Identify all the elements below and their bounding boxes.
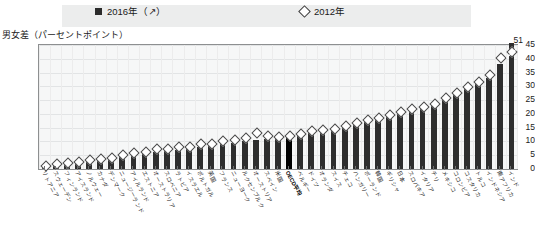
bar: [509, 43, 515, 169]
x-axis-label: 英国: [207, 170, 218, 183]
bar: [253, 140, 259, 169]
bar: [286, 137, 292, 169]
bar: [297, 136, 303, 169]
x-axis-labels: リトアニアスウェーデンフィンランドアイスランドノルウェーカナダデンマークニュージ…: [38, 170, 518, 232]
bar: [453, 95, 459, 169]
top-value-label: 51: [513, 36, 522, 45]
legend-item-2012: 2012年: [300, 7, 345, 17]
marker-2012: [251, 127, 262, 138]
axis-break-icon: [505, 47, 516, 58]
bar: [464, 89, 470, 169]
legend-label-2016: 2016年（↗）: [107, 7, 166, 17]
bar: [264, 139, 270, 169]
bar-series: [39, 45, 517, 169]
bar: [386, 117, 392, 169]
bar: [442, 100, 448, 169]
bar: [375, 119, 381, 169]
chart-page: 2016年（↗） 2012年 男女差（パーセントポイント） 4540353025…: [0, 0, 535, 233]
bar: [364, 122, 370, 169]
bar: [486, 78, 492, 169]
bar: [475, 84, 481, 169]
legend-item-2016: 2016年（↗）: [95, 7, 166, 17]
bar: [308, 133, 314, 169]
x-axis-label: 韓国: [374, 170, 385, 183]
bar: [331, 130, 337, 169]
plot-wrapper: 454035302520151050 51: [0, 42, 535, 170]
bar: [431, 106, 437, 169]
bar: [409, 111, 415, 169]
legend-label-2012: 2012年: [314, 7, 345, 17]
plot-area: [38, 44, 518, 170]
bar: [353, 125, 359, 169]
bar: [497, 64, 503, 169]
bar: [420, 108, 426, 169]
open-diamond-icon: [298, 5, 311, 18]
bar: [242, 141, 248, 169]
vertical-gridline: [517, 45, 518, 169]
bar: [320, 132, 326, 169]
bar: [342, 128, 348, 169]
x-axis-label: チリ: [429, 170, 440, 183]
x-axis-label: 米国: [274, 170, 285, 183]
y-axis-title: 男女差（パーセントポイント）: [2, 30, 128, 40]
bar: [397, 114, 403, 169]
filled-square-icon: [95, 8, 102, 15]
x-axis-label: 日本: [396, 170, 407, 183]
